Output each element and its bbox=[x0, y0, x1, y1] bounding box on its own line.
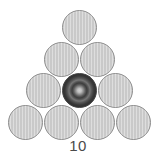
circle-r4c4 bbox=[116, 105, 151, 140]
figure-caption: 10 bbox=[0, 138, 156, 154]
figure-container: 10 bbox=[0, 0, 156, 162]
circle-r4c3 bbox=[80, 105, 115, 140]
circle-r1c1 bbox=[62, 10, 97, 45]
circle-r3c1 bbox=[26, 73, 61, 108]
circle-r3c3 bbox=[98, 73, 133, 108]
circle-r4c1 bbox=[8, 105, 43, 140]
circle-r4c2 bbox=[44, 105, 79, 140]
marked-circle bbox=[62, 73, 97, 108]
circle-r2c1 bbox=[44, 42, 79, 77]
circle-r2c2 bbox=[80, 42, 115, 77]
